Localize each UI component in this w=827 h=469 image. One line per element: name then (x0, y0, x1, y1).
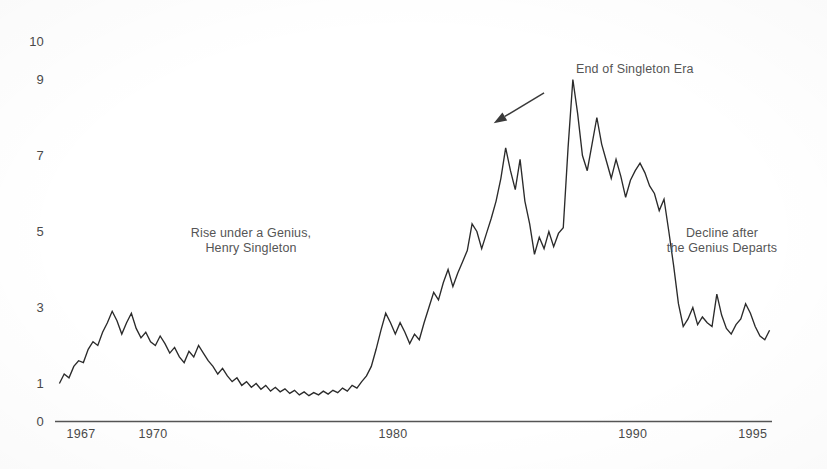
x-tick-label-1970: 1970 (125, 428, 181, 441)
x-tick-label-1995: 1995 (725, 428, 781, 441)
y-tick-label-9: 9 (20, 73, 44, 86)
y-tick-label-1: 1 (20, 377, 44, 390)
chart-figure: 10975310 19671970198019901995 Rise under… (0, 0, 827, 469)
annotation-arrow (494, 93, 544, 123)
y-tick-label-5: 5 (20, 225, 44, 238)
annotation-end-of-singleton-era: End of Singleton Era (576, 62, 718, 77)
annotation-rise-under-genius: Rise under a Genius, Henry Singleton (183, 226, 319, 255)
annotation-arrow-head (494, 113, 508, 124)
y-tick-label-10: 10 (20, 35, 44, 48)
annotation-decline-after-genius: Decline after the Genius Departs (652, 226, 792, 255)
y-tick-label-0: 0 (20, 415, 44, 428)
y-tick-label-3: 3 (20, 301, 44, 314)
y-tick-label-7: 7 (20, 149, 44, 162)
x-tick-label-1967: 1967 (53, 428, 109, 441)
x-tick-label-1990: 1990 (605, 428, 661, 441)
annotation-arrow-shaft (505, 93, 544, 117)
x-tick-label-1980: 1980 (365, 428, 421, 441)
